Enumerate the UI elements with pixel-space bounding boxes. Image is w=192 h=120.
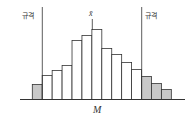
- axis-label: M: [92, 104, 102, 115]
- histogram-bar: [32, 85, 42, 100]
- histogram-bar: [62, 66, 72, 100]
- histogram-bar: [82, 36, 92, 100]
- histogram-bar: [52, 71, 62, 100]
- histogram-bar: [102, 49, 112, 100]
- histogram-bars: [32, 30, 171, 100]
- histogram-bar: [92, 30, 102, 100]
- histogram-bar: [42, 76, 52, 100]
- histogram-bar: [161, 90, 171, 100]
- histogram-diagram: 규격 규격 x̄ M: [0, 0, 192, 120]
- histogram-bar: [122, 63, 132, 100]
- histogram-bar: [132, 70, 142, 100]
- mean-label: x̄: [88, 9, 93, 18]
- upper-spec-label: 규격: [145, 12, 157, 20]
- histogram-bar: [142, 77, 152, 100]
- histogram-bar: [112, 55, 122, 100]
- lower-spec-label: 규격: [22, 12, 34, 20]
- histogram-bar: [151, 84, 161, 100]
- histogram-bar: [72, 41, 82, 100]
